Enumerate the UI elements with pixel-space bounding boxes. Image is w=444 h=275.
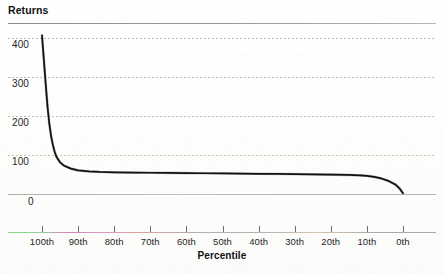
x-tick-label-40th: 40th	[239, 236, 279, 247]
x-tick-80th	[114, 226, 115, 232]
x-tick-40th	[259, 226, 260, 232]
x-tick-label-50th: 50th	[203, 236, 243, 247]
x-tick-label-0th: 0th	[383, 236, 423, 247]
x-tick-label-90th: 90th	[58, 236, 98, 247]
x-tick-label-60th: 60th	[166, 236, 206, 247]
x-tick-0th	[403, 226, 404, 232]
x-tick-90th	[78, 226, 79, 232]
returns-curve	[8, 24, 436, 196]
x-tick-50th	[223, 226, 224, 232]
x-tick-label-10th: 10th	[347, 236, 387, 247]
returns-percentile-chart: Returns 400 300 200 100 0	[0, 0, 444, 275]
x-tick-20th	[331, 226, 332, 232]
plot-area: 400 300 200 100 0	[8, 24, 436, 196]
y-tick-label-0: 0	[28, 196, 34, 207]
x-tick-label-30th: 30th	[275, 236, 315, 247]
y-axis-title: Returns	[8, 4, 48, 16]
x-tick-30th	[295, 226, 296, 232]
x-axis-line	[8, 232, 436, 233]
x-tick-label-70th: 70th	[130, 236, 170, 247]
x-tick-10th	[367, 226, 368, 232]
x-axis-title: Percentile	[0, 250, 444, 261]
x-tick-70th	[150, 226, 151, 232]
x-tick-label-80th: 80th	[94, 236, 134, 247]
x-tick-label-20th: 20th	[311, 236, 351, 247]
x-tick-100th	[42, 226, 43, 232]
curve-line	[42, 35, 403, 193]
curve-halo	[42, 35, 403, 193]
x-tick-60th	[186, 226, 187, 232]
x-tick-label-100th: 100th	[22, 236, 62, 247]
